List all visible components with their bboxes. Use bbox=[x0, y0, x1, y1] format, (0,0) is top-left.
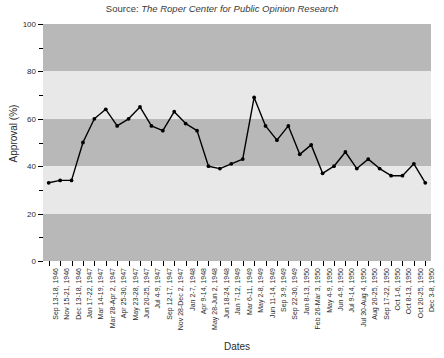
x-tick-label: Sep 3-9, 1949 bbox=[280, 268, 287, 312]
data-point bbox=[355, 167, 359, 171]
x-tick bbox=[72, 261, 73, 266]
x-tick-label: Dec 3-8, 1950 bbox=[428, 268, 435, 312]
x-tick-label: Feb 26-Mar 3, 1950 bbox=[314, 268, 321, 329]
chart-source-title: Source: The Roper Center for Public Opin… bbox=[0, 3, 444, 14]
x-tick-label: Jan 17-22, 1947 bbox=[86, 268, 93, 319]
x-tick-label: May 23-28, 1947 bbox=[132, 268, 139, 321]
data-point bbox=[218, 167, 222, 171]
x-tick bbox=[243, 261, 244, 266]
data-point bbox=[401, 174, 405, 178]
y-tick-minor bbox=[39, 190, 43, 191]
plot-area bbox=[43, 24, 431, 261]
x-tick bbox=[288, 261, 289, 266]
data-point bbox=[286, 124, 290, 128]
x-tick-label: Nov 15-21, 1946 bbox=[63, 268, 70, 320]
y-tick-label: 20 bbox=[27, 209, 36, 218]
x-tick bbox=[311, 261, 312, 266]
y-tick-minor bbox=[39, 95, 43, 96]
x-tick bbox=[231, 261, 232, 266]
x-tick bbox=[220, 261, 221, 266]
data-point bbox=[332, 164, 336, 168]
x-tick bbox=[300, 261, 301, 266]
data-point bbox=[378, 167, 382, 171]
x-tick-label: Jan 8-13, 1950 bbox=[303, 268, 310, 315]
data-point bbox=[172, 110, 176, 114]
x-tick bbox=[277, 261, 278, 266]
x-tick bbox=[368, 261, 369, 266]
x-tick bbox=[49, 261, 50, 266]
x-tick-label: May 2-8, 1949 bbox=[257, 268, 264, 313]
x-tick-label: Sep 13-18, 1946 bbox=[52, 268, 59, 320]
data-point bbox=[81, 141, 85, 145]
x-tick bbox=[186, 261, 187, 266]
x-tick bbox=[345, 261, 346, 266]
data-point bbox=[241, 157, 245, 161]
data-point bbox=[275, 138, 279, 142]
data-point bbox=[389, 174, 393, 178]
y-tick-label: 100 bbox=[23, 20, 36, 29]
data-point bbox=[58, 179, 62, 183]
x-tick bbox=[334, 261, 335, 266]
data-point bbox=[161, 129, 165, 133]
data-point bbox=[138, 105, 142, 109]
data-point bbox=[264, 124, 268, 128]
x-tick bbox=[391, 261, 392, 266]
x-tick-label: Oct 1-6, 1950 bbox=[394, 268, 401, 310]
x-tick-label: Aug 20-25, 1950 bbox=[371, 268, 378, 320]
data-point bbox=[70, 179, 74, 183]
x-tick-label: Jan 2-7, 1948 bbox=[189, 268, 196, 311]
x-tick bbox=[163, 261, 164, 266]
data-point bbox=[47, 181, 51, 185]
x-tick bbox=[140, 261, 141, 266]
y-tick-label: 0 bbox=[32, 257, 36, 266]
approval-line-chart: Source: The Roper Center for Public Opin… bbox=[0, 0, 444, 358]
data-point bbox=[92, 117, 96, 121]
data-point bbox=[127, 117, 131, 121]
y-tick-major bbox=[38, 71, 43, 72]
x-tick bbox=[266, 261, 267, 266]
data-point bbox=[150, 124, 154, 128]
x-tick-label: Jul 9-14, 1950 bbox=[348, 268, 355, 312]
y-tick-minor bbox=[39, 237, 43, 238]
x-tick bbox=[323, 261, 324, 266]
data-point bbox=[423, 181, 427, 185]
y-tick-major bbox=[38, 119, 43, 120]
y-tick-major bbox=[38, 214, 43, 215]
y-axis-title: Approval (%) bbox=[8, 69, 19, 199]
x-tick-label: Jun 18-24, 1948 bbox=[223, 268, 230, 319]
x-tick-label: Jan 7-12, 1949 bbox=[234, 268, 241, 315]
x-tick bbox=[174, 261, 175, 266]
x-tick-label: Sep 12-17, 1947 bbox=[166, 268, 173, 320]
data-point bbox=[412, 162, 416, 166]
y-axis: 020406080100 Approval (%) bbox=[0, 24, 43, 261]
y-tick-minor bbox=[39, 48, 43, 49]
x-tick bbox=[380, 261, 381, 266]
x-tick-label: Apr 25-30, 1947 bbox=[120, 268, 127, 318]
data-point bbox=[115, 124, 119, 128]
x-tick bbox=[208, 261, 209, 266]
x-tick bbox=[117, 261, 118, 266]
x-tick-label: Apr 9-14, 1948 bbox=[200, 268, 207, 314]
data-point bbox=[344, 150, 348, 154]
x-tick bbox=[414, 261, 415, 266]
x-tick bbox=[83, 261, 84, 266]
x-tick bbox=[129, 261, 130, 266]
x-tick-label: Sep 17-22, 1950 bbox=[383, 268, 390, 320]
x-tick-label: Jul 30-Aug 4, 1950 bbox=[360, 268, 367, 327]
series-layer bbox=[43, 24, 431, 261]
x-tick-label: Oct 20-25, 1950 bbox=[417, 268, 424, 318]
y-tick-minor bbox=[39, 143, 43, 144]
x-tick-label: May 4-9, 1950 bbox=[326, 268, 333, 313]
y-tick-label: 40 bbox=[27, 162, 36, 171]
data-point bbox=[252, 96, 256, 100]
x-tick bbox=[197, 261, 198, 266]
data-point bbox=[184, 122, 188, 126]
data-point bbox=[104, 107, 108, 111]
x-tick bbox=[60, 261, 61, 266]
x-tick-label: Oct 8-13, 1950 bbox=[405, 268, 412, 314]
y-tick-label: 60 bbox=[27, 114, 36, 123]
x-tick-label: May 28-Jun 2, 1948 bbox=[211, 268, 218, 330]
x-tick-label: Jun 11-14, 1949 bbox=[269, 268, 276, 318]
x-tick bbox=[151, 261, 152, 266]
x-tick-label: Mar 28-Apr 2, 1947 bbox=[109, 268, 116, 328]
